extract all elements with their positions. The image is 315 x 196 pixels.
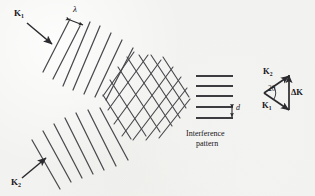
diagram-vector-layer — [0, 0, 315, 196]
interference-caption-line2: pattern — [196, 140, 218, 148]
angle-label: 2θ — [268, 85, 275, 93]
interference-caption-line1: Interference — [186, 130, 225, 138]
fringe-pattern-lines — [196, 76, 233, 118]
fringe-spacing-label: d — [236, 104, 240, 112]
k2-wave-arrow — [22, 158, 46, 178]
k1-wave-arrow — [27, 23, 52, 44]
lower-wavefront-group — [32, 108, 128, 189]
upper-wavefront-group — [43, 19, 133, 100]
wavelength-label: λ — [73, 5, 77, 14]
vector-k2-label: K2 — [263, 67, 272, 77]
interference-diagram-figure: K1 K2 λ d Interference pattern K2 K1 ΔK … — [0, 0, 315, 196]
k1-wave-label: K1 — [14, 9, 24, 20]
k2-wave-label: K2 — [11, 178, 21, 189]
crosshatch-overlap-region — [103, 52, 190, 140]
wavelength-arrow — [70, 20, 83, 25]
vector-k1-label: K1 — [262, 101, 271, 111]
vector-delta-k-label: ΔK — [291, 88, 303, 97]
